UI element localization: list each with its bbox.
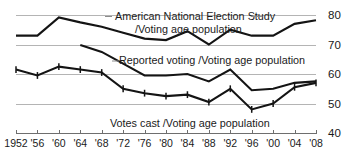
y-tick-label-60: 60: [328, 68, 341, 80]
y-tick-labels-group: 8070605040: [328, 9, 341, 139]
y-tick-label-50: 50: [328, 98, 341, 110]
x-tick-label-84: '84: [181, 137, 195, 149]
x-tick-label-92: '92: [223, 137, 237, 149]
annotation-votes-cast-label: Votes cast /Voting age population: [110, 117, 270, 129]
chart-plot-area: 8070605040 1952'56'60'64'68'72'76'80'84'…: [0, 0, 352, 166]
x-tick-label-08: '08: [309, 137, 323, 149]
x-tick-label-00: '00: [266, 137, 280, 149]
x-axis-group: [16, 130, 317, 134]
y-tick-label-70: 70: [328, 39, 341, 51]
x-tick-label-64: '64: [73, 137, 87, 149]
x-tick-label-1952: 1952: [4, 137, 28, 149]
y-tick-label-40: 40: [328, 127, 341, 139]
x-tick-label-76: '76: [138, 137, 152, 149]
x-tick-label-80: '80: [159, 137, 173, 149]
y-tick-label-80: 80: [328, 9, 341, 21]
x-tick-label-96: '96: [245, 137, 259, 149]
x-tick-label-88: '88: [202, 137, 216, 149]
annotation-reported-voting-label: Reported voting /Voting age population: [119, 54, 305, 66]
x-tick-label-60: '60: [52, 137, 66, 149]
x-tick-label-68: '68: [95, 137, 109, 149]
annotation-anes-label-line2: /Voting age population: [135, 23, 242, 35]
voter-turnout-line-chart: 8070605040 1952'56'60'64'68'72'76'80'84'…: [0, 0, 352, 166]
x-tick-labels-group: 1952'56'60'64'68'72'76'80'84'88'92'96'00…: [4, 137, 323, 149]
x-tick-label-56: '56: [31, 137, 45, 149]
x-tick-label-04: '04: [288, 137, 302, 149]
x-tick-label-72: '72: [116, 137, 130, 149]
